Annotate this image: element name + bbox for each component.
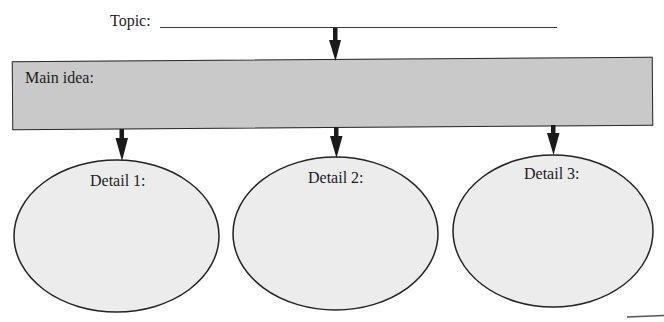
diagram-canvas	[0, 0, 664, 322]
corner-mark	[627, 316, 664, 318]
arrow-main-to-detail-2-icon	[330, 127, 343, 158]
arrow-main-to-detail-3-icon	[547, 125, 560, 155]
detail-2-label: Detail 2:	[308, 170, 364, 186]
arrow-main-to-detail-1-icon	[116, 129, 129, 161]
arrow-topic-to-main-idea-icon	[329, 28, 341, 61]
detail-3-label: Detail 3:	[524, 166, 580, 182]
detail-1-label: Detail 1:	[90, 173, 146, 189]
